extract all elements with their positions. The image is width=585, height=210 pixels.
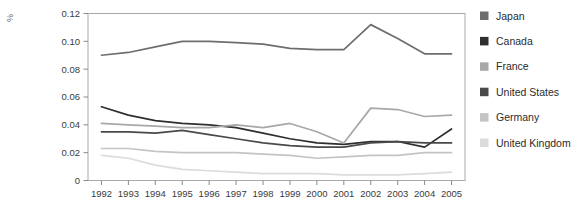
series-line-france — [101, 108, 451, 143]
legend-swatch-united-kingdom — [480, 139, 489, 148]
y-tick-label: 0.02 — [62, 147, 81, 158]
legend-swatch-japan — [480, 12, 489, 21]
legend-swatch-germany — [480, 113, 489, 122]
x-tick-label: 2003 — [387, 188, 408, 199]
legend: JapanCanadaFranceUnited StatesGermanyUni… — [480, 10, 571, 149]
x-tick-label: 1992 — [91, 188, 112, 199]
legend-swatch-canada — [480, 37, 489, 46]
x-tick-label: 1993 — [118, 188, 139, 199]
y-tick-label: 0.08 — [62, 64, 81, 75]
x-tick-label: 2000 — [306, 188, 327, 199]
y-axis: 0.120.100.080.060.040.020 — [62, 8, 89, 186]
y-tick-label: 0.04 — [62, 119, 81, 130]
x-tick-label: 1994 — [145, 188, 166, 199]
x-tick-label: 1996 — [199, 188, 220, 199]
x-tick-label: 1997 — [226, 188, 247, 199]
legend-swatch-united-states — [480, 88, 489, 97]
y-tick-label: 0.06 — [62, 91, 81, 102]
y-tick-label: 0.10 — [62, 36, 81, 47]
x-tick-label: 1995 — [172, 188, 193, 199]
series-line-germany — [101, 148, 451, 158]
y-axis-unit-label: % — [5, 14, 15, 22]
x-tick-label: 1998 — [252, 188, 273, 199]
x-tick-label: 2001 — [333, 188, 354, 199]
x-tick-label: 2002 — [360, 188, 381, 199]
series-line-united-kingdom — [101, 155, 451, 174]
legend-label-united-states: United States — [496, 86, 559, 98]
y-tick-label: 0 — [75, 175, 80, 186]
series-group — [101, 25, 451, 175]
chart-canvas: %0.120.100.080.060.040.02019921993199419… — [0, 0, 585, 210]
x-tick-label: 2005 — [441, 188, 462, 199]
legend-label-japan: Japan — [496, 10, 525, 22]
line-chart: %0.120.100.080.060.040.02019921993199419… — [0, 0, 585, 210]
legend-swatch-france — [480, 62, 489, 71]
x-tick-label: 2004 — [414, 188, 435, 199]
y-tick-label: 0.12 — [62, 8, 81, 19]
legend-label-germany: Germany — [496, 111, 540, 123]
legend-label-canada: Canada — [496, 35, 533, 47]
series-line-united-states — [101, 130, 451, 147]
x-axis: 1992199319941995199619971998199920002001… — [91, 181, 462, 199]
legend-label-united-kingdom: United Kingdom — [496, 137, 571, 149]
series-line-japan — [101, 25, 451, 56]
x-tick-label: 1999 — [279, 188, 300, 199]
legend-label-france: France — [496, 60, 529, 72]
